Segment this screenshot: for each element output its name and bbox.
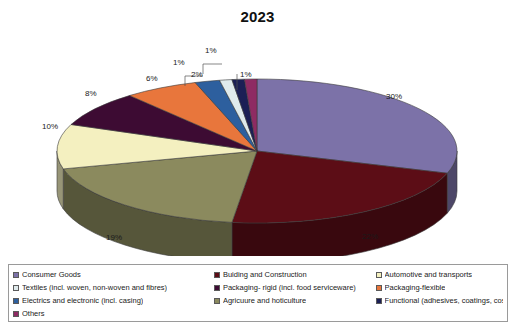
- legend-swatch-icon: [376, 272, 382, 278]
- legend-label: Packaging-flexible: [385, 283, 446, 292]
- legend-label: Agricuure and hoticulture: [223, 296, 306, 305]
- legend-grid: Consumer GoodsBuiding and ConstructionAu…: [13, 268, 503, 321]
- legend-swatch-icon: [376, 298, 382, 304]
- legend-swatch-icon: [13, 311, 19, 317]
- legend-item[interactable]: Others: [13, 307, 214, 320]
- slice-label-textiles: 1%: [173, 58, 185, 67]
- slice-label-automotive: 10%: [42, 122, 58, 131]
- slice-label-consumer-goods: 30%: [386, 92, 402, 101]
- legend-swatch-icon: [13, 272, 19, 278]
- legend-item[interactable]: Textiles (incl. woven, non-woven and fib…: [13, 281, 214, 294]
- legend-swatch-icon: [214, 298, 220, 304]
- legend-label: Electrics and electronic (incl. casing): [22, 296, 143, 305]
- legend-item[interactable]: Functional (adhesives, coatings, cosmeti…: [376, 294, 503, 307]
- slice-label-electrics: 2%: [191, 70, 203, 79]
- legend-swatch-icon: [214, 285, 220, 291]
- legend-item[interactable]: Consumer Goods: [13, 268, 214, 281]
- slice-label-building: 22%: [362, 232, 378, 241]
- legend-label: Textiles (incl. woven, non-woven and fib…: [22, 283, 167, 292]
- legend-swatch-icon: [376, 285, 382, 291]
- slice-label-packaging-rigid: 1%: [240, 70, 252, 79]
- legend-swatch-icon: [13, 285, 19, 291]
- pie-svg: [0, 46, 515, 256]
- legend-swatch-icon: [13, 298, 19, 304]
- slice-label-agriculture: 19%: [106, 233, 122, 242]
- pie-stage: 30% 22% 19% 10% 8% 6% 2% 1% 1% 1%: [0, 46, 515, 256]
- legend-label: Buiding and Construction: [223, 270, 307, 279]
- legend-item[interactable]: Buiding and Construction: [214, 268, 376, 281]
- pie-chart-figure: 2023 30% 22% 19% 10% 8% 6% 2% 1% 1% 1% C…: [0, 0, 515, 327]
- chart-title: 2023: [0, 8, 515, 25]
- legend-label: Others: [22, 309, 45, 318]
- slice-label-functional: 1%: [205, 46, 217, 55]
- legend-label: Functional (adhesives, coatings, cosmeti…: [385, 296, 503, 305]
- legend-item[interactable]: Packaging-flexible: [376, 281, 503, 294]
- slice-label-others: 8%: [85, 89, 97, 98]
- chart-legend: Consumer GoodsBuiding and ConstructionAu…: [8, 264, 508, 322]
- legend-item[interactable]: Agricuure and hoticulture: [214, 294, 376, 307]
- legend-item[interactable]: Electrics and electronic (incl. casing): [13, 294, 214, 307]
- legend-label: Packaging- rigid (incl. food serviceware…: [223, 283, 356, 292]
- slice-label-packaging-flex: 6%: [146, 74, 158, 83]
- legend-label: Consumer Goods: [22, 270, 81, 279]
- legend-label: Automotive and transports: [385, 270, 473, 279]
- legend-item[interactable]: Packaging- rigid (incl. food serviceware…: [214, 281, 376, 294]
- leader-line-1: [203, 64, 222, 74]
- legend-item[interactable]: Automotive and transports: [376, 268, 503, 281]
- legend-swatch-icon: [214, 272, 220, 278]
